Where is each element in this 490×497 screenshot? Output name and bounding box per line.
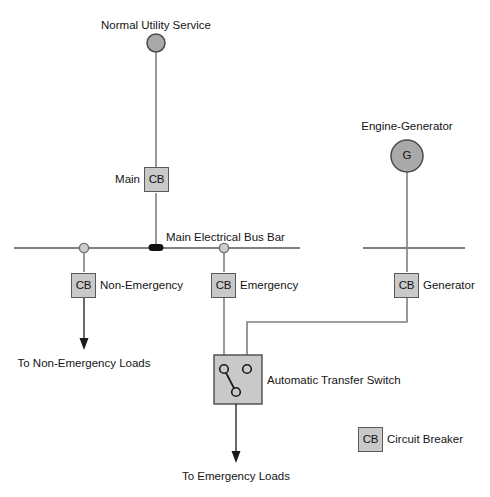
legend-circuit-breaker-tag: CB <box>363 434 379 446</box>
main-circuit-breaker-tag: CB <box>149 174 165 186</box>
single-line-diagram: Normal Utility Service Engine-Generator … <box>0 0 490 497</box>
emergency-loads-label: To Emergency Loads <box>158 470 314 483</box>
arrowhead-emergency-loads <box>232 451 241 463</box>
emergency-circuit-breaker[interactable]: CB <box>211 273 236 298</box>
generator-circuit-breaker-label: Generator <box>423 279 475 292</box>
bus-tap-non-emergency <box>79 243 88 252</box>
bus-connector-main <box>149 245 163 251</box>
arrowhead-non-emergency-loads <box>80 338 89 350</box>
main-circuit-breaker[interactable]: CB <box>144 167 169 192</box>
diagram-canvas <box>0 0 490 497</box>
legend-circuit-breaker-label: Circuit Breaker <box>387 433 463 446</box>
legend-circuit-breaker-symbol: CB <box>358 427 383 452</box>
generator-source-label: Engine-Generator <box>327 120 487 133</box>
emergency-circuit-breaker-label: Emergency <box>240 279 298 292</box>
wire-generator-cb-to-ats <box>247 298 407 369</box>
ats-terminal-normal-source <box>220 365 229 374</box>
non-emergency-circuit-breaker[interactable]: CB <box>71 273 96 298</box>
non-emergency-loads-label: To Non-Emergency Loads <box>6 357 162 370</box>
non-emergency-circuit-breaker-label: Non-Emergency <box>100 279 183 292</box>
emergency-circuit-breaker-tag: CB <box>216 280 232 292</box>
bus-tap-emergency <box>219 243 228 252</box>
generator-circuit-breaker-tag: CB <box>399 280 415 292</box>
automatic-transfer-switch-label: Automatic Transfer Switch <box>267 374 401 387</box>
generator-circuit-breaker[interactable]: CB <box>394 273 419 298</box>
main-circuit-breaker-label: Main <box>34 173 140 186</box>
utility-source-label: Normal Utility Service <box>76 19 236 32</box>
generator-symbol-letter: G <box>397 149 417 162</box>
utility-source-icon <box>147 34 165 52</box>
non-emergency-circuit-breaker-tag: CB <box>76 280 92 292</box>
main-bus-bar-label: Main Electrical Bus Bar <box>166 231 285 244</box>
ats-terminal-load <box>232 388 241 397</box>
ats-terminal-emergency-source <box>243 365 252 374</box>
